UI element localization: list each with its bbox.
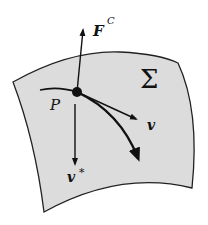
point-p-dot — [72, 87, 82, 97]
sigma-label: Σ — [140, 64, 158, 94]
velocity-star-superscript: * — [79, 166, 85, 179]
point-p-label: P — [49, 96, 61, 114]
surface-sigma — [13, 52, 194, 212]
velocity-label: v — [147, 117, 156, 133]
constraint-force-label: F — [92, 22, 105, 40]
diagram-canvas: Σ P F C v v * — [0, 0, 208, 225]
velocity-star-label: v — [67, 169, 76, 185]
constraint-force-superscript: C — [107, 15, 115, 26]
